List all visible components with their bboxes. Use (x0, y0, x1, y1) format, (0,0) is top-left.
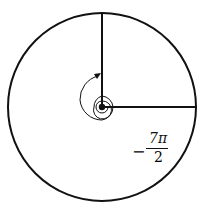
rotation-spiral (80, 76, 113, 120)
origin-dot (99, 104, 105, 110)
angle-sign: − (132, 142, 145, 161)
angle-numerator: 7π (149, 130, 167, 146)
angle-denominator: 2 (154, 149, 163, 165)
arrowhead-icon (94, 73, 101, 79)
angle-label: − 7π 2 (132, 130, 172, 166)
angle-diagram (0, 0, 208, 205)
